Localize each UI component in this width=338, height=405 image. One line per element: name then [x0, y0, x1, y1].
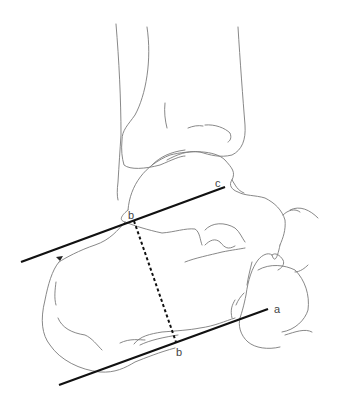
- lower-axis-line: [59, 309, 268, 385]
- upper-axis-line: [21, 187, 225, 262]
- perpendicular-dashed-line: [134, 221, 176, 342]
- label-b-upper: b: [128, 210, 134, 221]
- label-c: c: [215, 178, 221, 189]
- diagram-canvas: c b b a: [0, 0, 338, 405]
- midfoot-outline: [231, 208, 318, 348]
- leg-bones-outline: [116, 24, 245, 200]
- label-b-lower: b: [176, 347, 182, 358]
- label-a: a: [274, 304, 280, 315]
- calcaneus-outline: [42, 210, 245, 372]
- ankle-diagram-svg: [0, 0, 338, 405]
